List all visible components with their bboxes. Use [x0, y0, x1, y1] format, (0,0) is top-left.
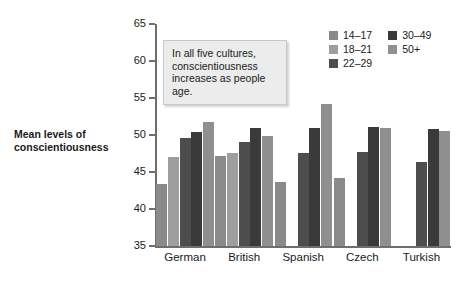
- bar: [334, 178, 345, 246]
- annotation-line-2: conscientiousness: [172, 60, 258, 72]
- bar: [416, 162, 427, 246]
- legend-swatch: [329, 31, 338, 40]
- bar: [428, 129, 439, 246]
- y-axis-title: Mean levels of conscientiousness: [14, 128, 126, 154]
- legend-swatch: [388, 45, 397, 54]
- y-axis-tick-label: 35: [118, 239, 146, 251]
- bar: [439, 131, 450, 246]
- x-axis-category-label: Turkish: [392, 251, 451, 263]
- bar: [298, 153, 309, 246]
- legend-label: 30–49: [402, 29, 431, 41]
- bar: [156, 184, 167, 246]
- annotation-line-1: In all five cultures,: [172, 47, 256, 59]
- x-axis-category-label: British: [215, 251, 274, 263]
- y-axis-tick-label: 40: [118, 202, 146, 214]
- y-axis-tick: [149, 97, 155, 99]
- bar: [309, 128, 320, 246]
- y-axis-tick-label: 65: [118, 17, 146, 29]
- annotation-callout: In all five cultures, conscientiousness …: [163, 40, 287, 105]
- legend-item: 22–29: [329, 56, 372, 70]
- y-axis-tick-label: 50: [118, 128, 146, 140]
- y-axis-tick: [149, 245, 155, 247]
- x-axis-category-label: German: [156, 251, 215, 263]
- bar: [215, 156, 226, 246]
- legend-item: 30–49: [388, 28, 431, 42]
- bar: [321, 104, 332, 246]
- legend-item: 18–21: [329, 42, 372, 56]
- bar: [250, 128, 261, 246]
- x-axis-category-label: Spanish: [274, 251, 333, 263]
- legend-label: 22–29: [343, 57, 372, 69]
- legend-label: 18–21: [343, 43, 372, 55]
- legend-swatch: [388, 31, 397, 40]
- bar: [180, 138, 191, 246]
- y-axis-tick-label: 45: [118, 165, 146, 177]
- bar: [227, 153, 238, 246]
- legend-swatch: [329, 59, 338, 68]
- bar: [203, 122, 214, 246]
- y-axis-tick-label: 55: [118, 91, 146, 103]
- y-axis-tick-label: 60: [118, 54, 146, 66]
- y-axis-tick: [149, 171, 155, 173]
- legend-swatch: [329, 45, 338, 54]
- chart-legend: 14–1718–2122–2930–4950+: [329, 28, 431, 70]
- bar: [262, 136, 273, 246]
- y-axis-tick: [149, 60, 155, 62]
- legend-item: 50+: [388, 42, 431, 56]
- bar: [357, 152, 368, 246]
- y-axis-tick: [149, 23, 155, 25]
- bar: [191, 132, 202, 246]
- y-axis-tick: [149, 208, 155, 210]
- legend-label: 14–17: [343, 29, 372, 41]
- legend-label: 50+: [402, 43, 420, 55]
- annotation-line-3: increases as people age.: [172, 72, 265, 97]
- bar: [380, 128, 391, 246]
- legend-item: 14–17: [329, 28, 372, 42]
- x-axis-category-label: Czech: [333, 251, 392, 263]
- bar-chart: Mean levels of conscientiousness 3540455…: [0, 0, 465, 293]
- bar: [168, 157, 179, 246]
- y-axis-tick: [149, 134, 155, 136]
- bar: [275, 182, 286, 246]
- bar: [239, 142, 250, 246]
- x-axis-line: [155, 246, 451, 248]
- bar: [368, 127, 379, 246]
